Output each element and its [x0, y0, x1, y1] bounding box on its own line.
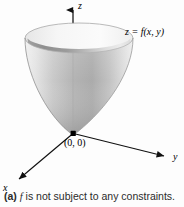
origin-point-marker: [71, 131, 76, 136]
surface-equation-label: z = f(x, y): [125, 27, 164, 37]
caption-tag: (a): [4, 190, 17, 202]
origin-coordinate-label: (0, 0): [64, 138, 86, 148]
axis-label-z: z: [78, 1, 82, 11]
axis-label-y: y: [173, 152, 177, 162]
figure-caption: (a) f is not subject to any constraints.: [4, 190, 184, 203]
axis-y: [74, 134, 165, 157]
figure-container: z y x z = f(x, y) (0, 0) (a) f is not su…: [0, 0, 184, 207]
paraboloid-surface: [25, 23, 133, 134]
caption-text: is not subject to any constraints.: [26, 190, 175, 202]
